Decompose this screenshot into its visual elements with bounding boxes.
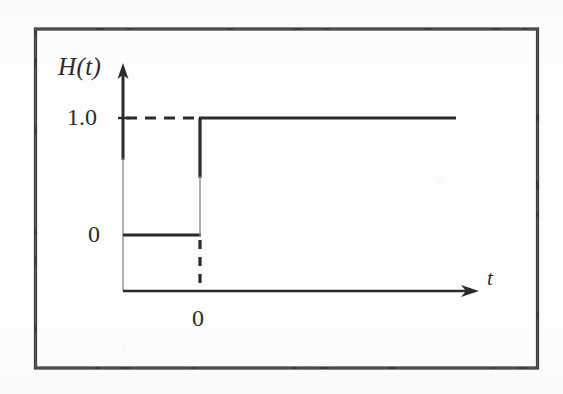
y-axis-title: H(t) xyxy=(58,54,101,79)
figure-frame xyxy=(36,29,538,368)
y-tick-label-one: 1.0 xyxy=(67,105,97,129)
guide-group xyxy=(126,118,200,291)
axis-group xyxy=(118,63,480,297)
x-axis-title: t xyxy=(487,268,493,289)
figure-root: H(t) t 1.0 0 0 xyxy=(0,0,563,394)
x-tick-label-zero: 0 xyxy=(192,306,204,330)
y-tick-label-zero: 0 xyxy=(88,222,100,246)
step-function-curve xyxy=(123,118,456,236)
